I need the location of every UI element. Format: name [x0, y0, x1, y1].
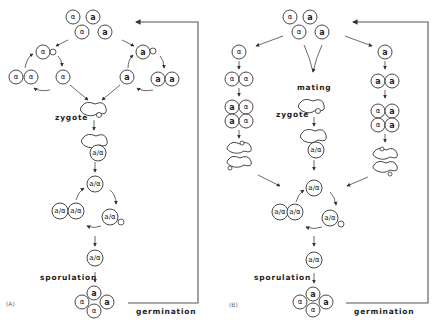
svg-text:a: a	[155, 75, 160, 84]
svg-text:α: α	[244, 117, 249, 125]
svg-text:α: α	[29, 73, 34, 81]
panel-b: α a α a mating α α α a α a α	[225, 10, 428, 317]
svg-text:α: α	[244, 103, 249, 111]
panel-a-a-cycle: a a a a	[120, 45, 179, 91]
svg-text:a/α: a/α	[308, 184, 320, 192]
svg-text:α: α	[41, 48, 46, 56]
panel-b-diploid-cycle: a/α a/α a/α a/α	[272, 180, 344, 229]
svg-text:a: a	[229, 117, 234, 126]
svg-text:a: a	[375, 77, 380, 86]
panel-b-zygote: zygote a/α	[276, 99, 326, 158]
svg-text:a: a	[104, 298, 109, 307]
svg-text:α: α	[14, 73, 19, 81]
panel-b-tetrad: a α a α	[293, 287, 333, 317]
svg-text:a/α: a/α	[308, 256, 320, 264]
svg-text:a/α: a/α	[89, 254, 101, 262]
svg-text:a: a	[307, 13, 312, 22]
svg-text:α: α	[237, 48, 242, 56]
svg-text:a: a	[382, 48, 387, 57]
panel-a-germination-path	[128, 22, 198, 303]
svg-text:a: a	[90, 13, 95, 22]
svg-text:a: a	[389, 121, 394, 130]
svg-text:mating: mating	[297, 83, 332, 92]
svg-text:zygote: zygote	[55, 113, 88, 122]
panel-b-diploid-pre-sporulation: a/α	[306, 252, 322, 268]
svg-text:α: α	[61, 73, 66, 81]
svg-text:α: α	[298, 298, 303, 306]
svg-text:α: α	[376, 107, 381, 115]
panel-b-top-spores: α a α a	[283, 10, 329, 39]
panel-a: α a α a α α α α a a a a	[6, 10, 198, 318]
svg-text:germination: germination	[136, 307, 196, 316]
svg-text:a/α: a/α	[324, 214, 336, 222]
svg-text:α: α	[288, 13, 293, 21]
panel-a-tetrad: a α a α	[75, 286, 114, 318]
svg-text:α: α	[376, 121, 381, 129]
svg-text:germination: germination	[354, 307, 414, 316]
svg-text:a: a	[389, 77, 394, 86]
svg-text:a/α: a/α	[89, 180, 101, 188]
svg-text:a: a	[389, 107, 394, 116]
svg-text:α: α	[230, 75, 235, 83]
panel-a-diploid-cycle: a/α a/α a/α a/α	[52, 176, 124, 228]
svg-text:a: a	[124, 73, 129, 82]
svg-text:a/α: a/α	[274, 208, 286, 216]
svg-text:a: a	[169, 75, 174, 84]
panel-a-diploid-pre-sporulation: a/α	[87, 250, 103, 266]
svg-text:a: a	[140, 48, 145, 57]
svg-text:α: α	[311, 306, 316, 314]
svg-text:sporulation: sporulation	[40, 273, 97, 282]
svg-text:a/α: a/α	[310, 146, 322, 154]
svg-text:a/α: a/α	[289, 208, 301, 216]
yeast-life-cycle-diagram: α a α a α α α α a a a a	[0, 0, 438, 323]
panel-a-top-spores: α a α a	[66, 10, 112, 39]
svg-text:a/α: a/α	[104, 213, 116, 221]
svg-text:zygote: zygote	[276, 110, 309, 119]
svg-text:a/α: a/α	[54, 207, 66, 215]
svg-text:a: a	[229, 103, 234, 112]
svg-text:α: α	[92, 307, 97, 315]
svg-text:α: α	[80, 28, 85, 36]
svg-text:a: a	[323, 298, 328, 307]
panel-b-a-column: a a a α a α a	[371, 45, 399, 176]
svg-text:a: a	[91, 289, 96, 298]
panel-a-zygote: zygote	[55, 102, 106, 122]
panel-a-label: (A)	[6, 300, 15, 307]
panel-a-zygote-diploid-bud: a/α	[81, 134, 107, 161]
svg-text:a/α: a/α	[92, 149, 104, 157]
svg-text:a: a	[319, 28, 324, 37]
panel-b-label: (B)	[229, 301, 238, 308]
panel-a-alpha-cycle: α α α α	[9, 45, 70, 91]
svg-text:a/α: a/α	[70, 207, 82, 215]
svg-text:α: α	[80, 298, 85, 306]
svg-text:α: α	[244, 75, 249, 83]
svg-text:α: α	[71, 13, 76, 21]
svg-text:α: α	[297, 28, 302, 36]
svg-text:a: a	[310, 290, 315, 299]
panel-b-alpha-column: α α α a α a α	[225, 45, 253, 170]
svg-text:a: a	[102, 28, 107, 37]
svg-text:sporulation: sporulation	[254, 273, 311, 282]
